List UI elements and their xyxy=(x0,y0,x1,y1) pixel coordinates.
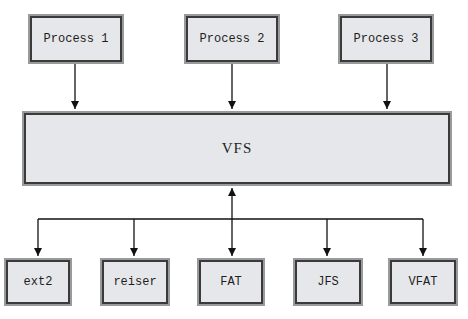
process-2-label: Process 2 xyxy=(200,32,265,46)
process-3-box: Process 3 xyxy=(340,16,432,62)
fs-vfat-label: VFAT xyxy=(409,275,438,289)
fs-fat-box: FAT xyxy=(199,260,263,304)
vfs-box: VFS xyxy=(24,113,450,184)
process-1-label: Process 1 xyxy=(44,32,109,46)
vfs-architecture-diagram: Process 1 Process 2 Process 3 VFS ext2 r… xyxy=(0,0,468,319)
process-1-box: Process 1 xyxy=(30,16,122,62)
vfs-label: VFS xyxy=(222,140,253,157)
fs-vfat-box: VFAT xyxy=(390,260,456,304)
fs-reiser-box: reiser xyxy=(102,260,168,304)
fs-fat-label: FAT xyxy=(220,275,242,289)
fs-ext2-label: ext2 xyxy=(24,275,53,289)
fs-ext2-box: ext2 xyxy=(6,260,70,304)
process-2-box: Process 2 xyxy=(186,16,278,62)
fs-reiser-label: reiser xyxy=(113,275,156,289)
process-3-label: Process 3 xyxy=(354,32,419,46)
fs-jfs-label: JFS xyxy=(317,275,339,289)
fs-jfs-box: JFS xyxy=(295,260,361,304)
